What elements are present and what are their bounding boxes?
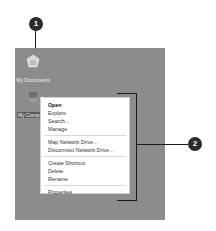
menu-item-rename[interactable]: Rename xyxy=(41,175,129,183)
menu-separator xyxy=(44,156,126,157)
desktop-icon-my-documents[interactable]: My Documents xyxy=(11,54,55,86)
bracket-vertical xyxy=(136,93,137,201)
context-menu: Open Explore Search... Manage Map Networ… xyxy=(40,97,130,194)
my-computer-icon xyxy=(26,89,40,103)
bracket-top xyxy=(117,93,137,94)
menu-item-properties[interactable]: Properties xyxy=(41,188,129,196)
desktop-icon-label: My Documents xyxy=(15,77,50,83)
callout-2: 2 xyxy=(188,137,202,151)
menu-item-explore[interactable]: Explore xyxy=(41,109,129,117)
menu-item-disconnect-network-drive[interactable]: Disconnect Network Drive... xyxy=(41,146,129,154)
menu-separator xyxy=(44,185,126,186)
callout-1-number: 1 xyxy=(34,19,38,28)
menu-separator xyxy=(44,135,126,136)
menu-item-map-network-drive[interactable]: Map Network Drive... xyxy=(41,138,129,146)
bracket-bottom xyxy=(117,200,137,201)
callout-2-leader-line xyxy=(137,144,188,145)
my-documents-icon xyxy=(26,54,40,68)
menu-item-search[interactable]: Search... xyxy=(41,117,129,125)
callout-2-number: 2 xyxy=(193,139,197,148)
menu-item-manage[interactable]: Manage xyxy=(41,125,129,133)
menu-item-create-shortcut[interactable]: Create Shortcut xyxy=(41,159,129,167)
callout-1: 1 xyxy=(29,17,43,31)
menu-item-open[interactable]: Open xyxy=(41,101,129,109)
menu-item-delete[interactable]: Delete xyxy=(41,167,129,175)
